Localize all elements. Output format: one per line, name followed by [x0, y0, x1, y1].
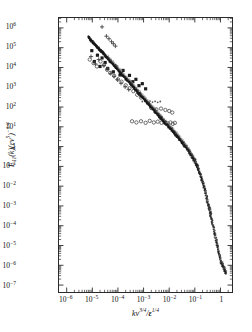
curve-data-point-secondary — [173, 129, 174, 130]
curve-data-point-secondary — [192, 156, 193, 157]
curve-data-point-secondary — [189, 149, 190, 150]
curve-data-point-secondary — [114, 63, 115, 64]
curve-data-point-secondary — [193, 155, 194, 156]
curve-data-point-secondary — [213, 225, 214, 226]
curve-data-point-secondary — [221, 261, 222, 262]
curve-data-point-secondary — [218, 248, 219, 249]
marker-dot — [154, 100, 156, 102]
curve-data-point-secondary — [203, 181, 204, 182]
curve-data-point-secondary — [149, 101, 150, 102]
curve-data-point-secondary — [184, 143, 185, 144]
y-tick-label: 103 — [0, 83, 16, 91]
curve-data-point-secondary — [190, 150, 191, 151]
curve-data-point-secondary — [123, 73, 124, 74]
curve-data-point-secondary — [219, 251, 220, 252]
curve-data-point-secondary — [156, 110, 157, 111]
figure-container: E11(k)(εν5)−1/4 kν3/4/ε1/4 10−710−610−51… — [0, 0, 252, 332]
y-tick-label: 10−4 — [0, 222, 16, 230]
curve-data-point-secondary — [215, 237, 216, 238]
curve-data-point-secondary — [117, 65, 118, 66]
curve-data-point-secondary — [202, 176, 203, 177]
curve-data-point-secondary — [152, 104, 153, 105]
tick-marks-layer — [59, 18, 232, 292]
curve-data-point-secondary — [198, 164, 199, 165]
curve-data-point-secondary — [213, 229, 214, 230]
curve-data-point-secondary — [198, 162, 199, 163]
marker-filled-square — [90, 49, 93, 52]
curve-data-point-secondary — [141, 95, 142, 96]
curve-data-point-secondary — [202, 182, 203, 183]
curve-data-point-secondary — [208, 203, 209, 204]
plot-area — [58, 17, 233, 293]
curve-data-point-secondary — [191, 151, 192, 152]
curve-data-point-secondary — [214, 227, 215, 228]
curve-data-point-secondary — [179, 136, 180, 137]
curve-data-point-secondary — [129, 78, 130, 79]
curve-data-point-secondary — [127, 77, 128, 78]
curve-data-point-secondary — [223, 265, 224, 266]
curve-data-point-secondary — [195, 160, 196, 161]
curve-data-point-secondary — [217, 243, 218, 244]
curve-data-point-secondary — [187, 146, 188, 147]
curve-data-point-secondary — [217, 246, 218, 247]
curve-data-point-secondary — [144, 95, 145, 96]
curve-data-point-secondary — [164, 121, 165, 122]
curve-data-point-secondary — [213, 227, 214, 228]
curve-data-point-secondary — [140, 91, 141, 92]
marker-open-circle — [135, 121, 138, 124]
curve-data-point — [226, 272, 227, 273]
curve-data-point-secondary — [216, 237, 217, 238]
curve-data-point-secondary — [147, 99, 148, 100]
curve-data-point-secondary — [121, 70, 122, 71]
curve-data-point-secondary — [223, 266, 224, 267]
x-tick-label: 1 — [201, 296, 241, 304]
marker-filled-square — [100, 56, 103, 59]
plot-canvas — [59, 18, 232, 292]
x-axis-title: kν3/4/ε1/4 — [58, 309, 233, 318]
curve-data-point-secondary — [187, 147, 188, 148]
curve-data-point-secondary — [214, 230, 215, 231]
curve-data-point-secondary — [163, 118, 164, 119]
curve-data-point-secondary — [123, 72, 124, 73]
curve-data-point-secondary — [191, 152, 192, 153]
curve-data-point-secondary — [212, 221, 213, 222]
curve-data-point-secondary — [223, 264, 224, 265]
curve-data-point-secondary — [184, 141, 185, 142]
curve-data-point-secondary — [207, 200, 208, 201]
curve-data-point-secondary — [144, 97, 145, 98]
curve-data-point-secondary — [204, 182, 205, 183]
curve-data-point-secondary — [207, 195, 208, 196]
curve-data-point-secondary — [198, 168, 199, 169]
curve-data-point-secondary — [209, 205, 210, 206]
curve-data-point-secondary — [221, 262, 222, 263]
curve-data-point-secondary — [223, 261, 224, 262]
curve-data-point-secondary — [209, 210, 210, 211]
curve-data-point-secondary — [210, 213, 211, 214]
curve-data-point-secondary — [172, 127, 173, 128]
curve-data-point-secondary — [126, 77, 127, 78]
curve-data-point-secondary — [214, 226, 215, 227]
y-tick-label: 102 — [0, 103, 16, 111]
curve-data-point-secondary — [212, 219, 213, 220]
curve-data-point-secondary — [195, 159, 196, 160]
curve-data-point-secondary — [107, 55, 108, 56]
curve-data-point-secondary — [160, 114, 161, 115]
marker-filled-square — [128, 74, 131, 77]
curve-data-point-secondary — [212, 222, 213, 223]
marker-open-circle — [152, 121, 155, 124]
marker-open-circle — [130, 120, 133, 123]
curve-data-point-secondary — [204, 188, 205, 189]
curve-data-point-secondary — [173, 128, 174, 129]
curve-data-point-secondary — [204, 185, 205, 186]
marker-filled-square — [141, 82, 144, 85]
curve-data-point-secondary — [206, 193, 207, 194]
curve-data-point-secondary — [173, 129, 174, 130]
curve-data-point-secondary — [225, 270, 226, 271]
curve-data-point-secondary — [140, 94, 141, 95]
curve-data-point-secondary — [169, 124, 170, 125]
curve-data-point-secondary — [206, 192, 207, 193]
curve-data-point-secondary — [216, 239, 217, 240]
curve-data-point-secondary — [159, 111, 160, 112]
curve-data-point-secondary — [162, 116, 163, 117]
marker-open-circle — [95, 65, 98, 68]
